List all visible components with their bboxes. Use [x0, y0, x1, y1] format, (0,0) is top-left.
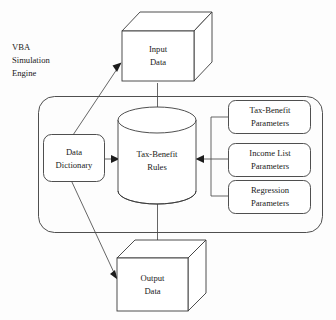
- income-list-parameters-label-line1: Income List: [249, 148, 291, 158]
- node-data-dictionary[interactable]: Data Dictionary: [44, 135, 105, 182]
- regression-parameters-label-line2: Parameters: [251, 198, 290, 208]
- arrowhead-input-data: [113, 63, 122, 73]
- edge-data-dictionary-to-rules: [105, 155, 120, 163]
- income-list-parameters-label-line2: Parameters: [251, 161, 290, 171]
- diagram-canvas: Input Data Output Data Tax-Benefit Rules…: [0, 0, 336, 320]
- input-data-front-face: [122, 31, 194, 81]
- output-data-front-face: [117, 258, 188, 311]
- output-data-label-line2: Data: [144, 286, 160, 296]
- rules-label-line2: Rules: [147, 162, 167, 172]
- node-output-data[interactable]: Output Data: [117, 240, 206, 311]
- node-income-list-parameters[interactable]: Income List Parameters: [229, 144, 311, 177]
- edge-data-dictionary-to-output-data: [71, 180, 118, 280]
- vba-simulation-engine-label: VBA Simulation Engine: [12, 42, 50, 78]
- rules-cylinder-top: [118, 107, 196, 133]
- data-dictionary-box: [44, 135, 105, 182]
- node-tax-benefit-rules[interactable]: Tax-Benefit Rules: [118, 107, 196, 204]
- output-data-label-line1: Output: [141, 273, 165, 283]
- data-dictionary-label-line2: Dictionary: [56, 160, 93, 170]
- tax-benefit-parameters-label-line2: Parameters: [251, 118, 290, 128]
- diagram-svg: Input Data Output Data Tax-Benefit Rules…: [0, 0, 336, 320]
- corner-label-line3: Engine: [12, 68, 37, 78]
- edge-parameters-bus-to-rules: [196, 117, 229, 196]
- arrowhead-rules-right: [196, 155, 205, 163]
- regression-parameters-label-line1: Regression: [251, 185, 290, 195]
- node-regression-parameters[interactable]: Regression Parameters: [229, 181, 311, 214]
- edge-data-dictionary-to-input-data: [71, 63, 122, 139]
- input-data-label-line2: Data: [150, 57, 166, 67]
- tax-benefit-parameters-label-line1: Tax-Benefit: [250, 105, 292, 115]
- corner-label-line1: VBA: [12, 42, 31, 52]
- arrowhead-output-data: [110, 270, 118, 280]
- node-tax-benefit-parameters[interactable]: Tax-Benefit Parameters: [229, 101, 311, 134]
- corner-label-line2: Simulation: [12, 55, 50, 65]
- node-input-data[interactable]: Input Data: [122, 12, 212, 81]
- input-data-label-line1: Input: [149, 44, 168, 54]
- rules-label-line1: Tax-Benefit: [137, 149, 179, 159]
- data-dictionary-label-line1: Data: [66, 147, 82, 157]
